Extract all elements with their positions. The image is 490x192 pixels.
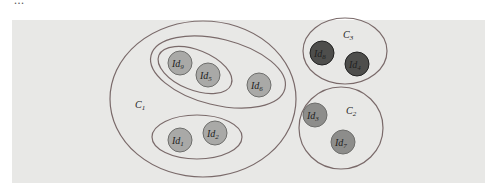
- cluster-c2-boundary: [299, 87, 383, 169]
- cluster-c1-label: C1: [135, 99, 145, 112]
- subgroup-id1-id2-boundary: [152, 115, 242, 159]
- subgroup-id9-id5-boundary: [151, 37, 238, 103]
- cluster-c2-label: C2: [346, 105, 357, 118]
- cluster-diagram: Id9 Id5 Id6 Id1 Id2 Id8 Id4 Id3 Id7 C1 C…: [0, 0, 490, 192]
- cluster-c3-label: C3: [343, 29, 354, 42]
